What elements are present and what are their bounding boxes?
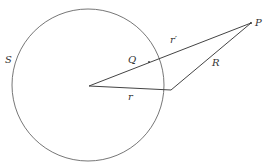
label-p: P <box>254 17 262 28</box>
potential-geometry-diagram: S P Q r′ R r <box>0 0 266 163</box>
sphere-s-circle <box>12 9 164 161</box>
point-q-marker <box>148 61 150 63</box>
point-p-marker <box>250 22 252 24</box>
label-q: Q <box>128 54 136 65</box>
label-r-prime: r′ <box>170 34 178 45</box>
label-s: S <box>5 54 12 65</box>
label-capital-r: R <box>211 57 220 68</box>
line-r-prime-center-to-p <box>89 23 251 86</box>
line-r-center-to-surface <box>89 86 171 90</box>
line-R-surface-to-p <box>171 23 251 90</box>
label-r: r <box>128 91 134 102</box>
